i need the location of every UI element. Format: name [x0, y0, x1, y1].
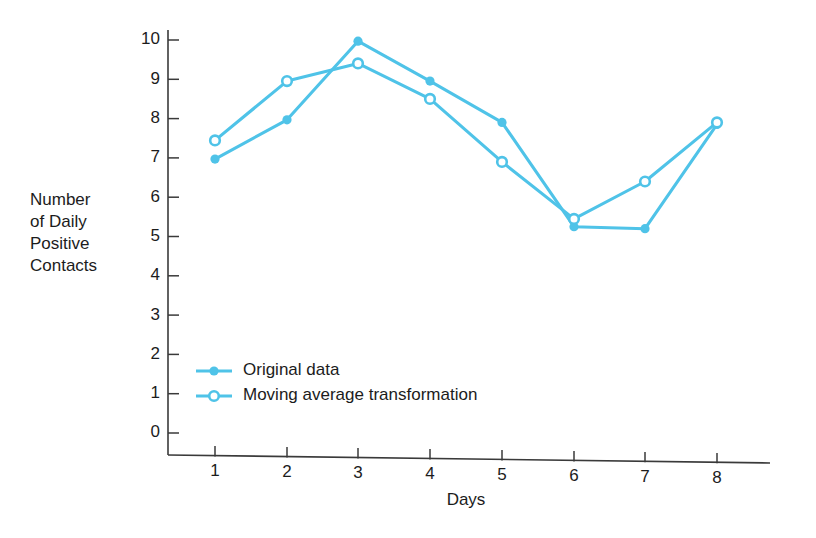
y-tick-label-9: 9 — [151, 69, 160, 88]
y-axis-title-line-4: Contacts — [30, 256, 97, 275]
x-tick-label-5: 5 — [497, 465, 506, 484]
y-axis-title-line-1: Number — [30, 190, 91, 209]
data-point-marker — [282, 115, 291, 124]
data-point-marker — [282, 76, 292, 86]
y-tick-label-0: 0 — [151, 422, 160, 441]
y-axis-title: Number of Daily Positive Contacts — [30, 190, 97, 275]
data-point-marker — [640, 177, 650, 187]
series-moving-average-line — [215, 63, 717, 219]
series-moving-average — [210, 59, 722, 224]
y-tick-label-1: 1 — [151, 383, 160, 402]
x-axis-line — [168, 455, 770, 463]
data-point-marker — [640, 224, 649, 233]
y-tick-label-5: 5 — [151, 226, 160, 245]
data-point-marker — [425, 77, 434, 86]
data-point-marker — [569, 214, 579, 224]
y-tick-label-6: 6 — [151, 187, 160, 206]
y-axis-title-line-3: Positive — [30, 234, 90, 253]
legend-item-moving-average: Moving average transformation — [196, 385, 477, 404]
legend-item-original-data: Original data — [196, 360, 340, 379]
y-tick-label-10: 10 — [141, 29, 160, 48]
y-axis-tick-labels: 10 9 8 7 6 5 4 3 2 1 0 — [141, 29, 160, 441]
data-point-marker — [712, 118, 722, 128]
data-point-marker — [497, 118, 506, 127]
data-point-marker — [353, 59, 363, 69]
data-point-marker — [210, 155, 219, 164]
series-original-data — [210, 37, 721, 234]
x-axis-tick-labels: 1 2 3 4 5 6 7 8 — [210, 461, 721, 487]
data-point-marker — [425, 94, 435, 104]
data-point-marker — [353, 37, 362, 46]
y-axis: 10 9 8 7 6 5 4 3 2 1 0 Number of Daily P… — [30, 29, 179, 455]
x-tick-label-6: 6 — [569, 466, 578, 485]
y-tick-label-4: 4 — [151, 265, 160, 284]
x-tick-label-8: 8 — [712, 468, 721, 487]
legend-filled-circle-icon — [209, 366, 218, 375]
legend-label-moving-average: Moving average transformation — [243, 385, 477, 404]
x-tick-label-7: 7 — [640, 467, 649, 486]
y-axis-ticks — [168, 40, 179, 433]
y-axis-title-line-2: of Daily — [30, 212, 87, 231]
x-axis-title: Days — [447, 490, 486, 509]
x-axis: 1 2 3 4 5 6 7 8 Days — [168, 446, 770, 509]
series-original-data-line — [215, 41, 717, 229]
chart-container: 10 9 8 7 6 5 4 3 2 1 0 Number of Daily P… — [0, 0, 816, 538]
y-tick-label-2: 2 — [151, 344, 160, 363]
line-chart: 10 9 8 7 6 5 4 3 2 1 0 Number of Daily P… — [0, 0, 816, 538]
y-tick-label-8: 8 — [151, 108, 160, 127]
x-tick-label-4: 4 — [425, 464, 434, 483]
chart-legend: Original data Moving average transformat… — [196, 360, 477, 404]
legend-open-circle-icon — [209, 391, 219, 401]
legend-label-original-data: Original data — [243, 360, 340, 379]
x-tick-label-2: 2 — [282, 462, 291, 481]
data-point-marker — [497, 157, 507, 167]
x-tick-label-1: 1 — [210, 461, 219, 480]
y-tick-label-7: 7 — [151, 147, 160, 166]
data-point-marker — [210, 136, 220, 146]
x-tick-label-3: 3 — [353, 463, 362, 482]
y-tick-label-3: 3 — [151, 305, 160, 324]
